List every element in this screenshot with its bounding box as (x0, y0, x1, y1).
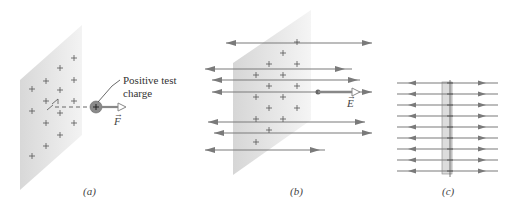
left-arrowhead-icon (212, 77, 222, 83)
panel-c (397, 80, 498, 177)
right-arrowhead-icon (478, 136, 486, 141)
panel-a (20, 25, 126, 190)
right-arrowhead-icon (310, 147, 320, 153)
right-arrowhead-icon (348, 77, 358, 83)
left-arrowhead-icon (408, 103, 416, 108)
right-arrowhead-icon (478, 92, 486, 97)
right-arrowhead-icon (335, 66, 345, 72)
right-arrowhead-icon (478, 169, 486, 174)
left-arrowhead-icon (408, 125, 416, 130)
left-arrowhead-icon (205, 66, 215, 72)
caption-b: (b) (290, 185, 303, 197)
vector-arrow-icon: → (114, 109, 123, 119)
right-arrowhead-icon (355, 119, 365, 125)
annotation-label-line1: Positive test (123, 74, 176, 86)
left-arrowhead-icon (408, 81, 416, 86)
right-arrowhead-icon (478, 125, 486, 130)
annotation-label-line2: charge (123, 87, 152, 99)
left-arrowhead-icon (212, 89, 222, 95)
right-arrowhead-icon (478, 81, 486, 86)
left-arrowhead-icon (226, 40, 236, 46)
annotation-leader-line (98, 80, 120, 102)
right-arrowhead-icon (478, 114, 486, 119)
left-arrowhead-icon (408, 169, 416, 174)
caption-a: (a) (83, 185, 96, 197)
right-arrowhead-icon (478, 147, 486, 152)
left-arrowhead-icon (408, 158, 416, 163)
left-arrowhead-icon (408, 136, 416, 141)
right-arrowhead-icon (478, 158, 486, 163)
left-arrowhead-icon (208, 119, 218, 125)
left-arrowhead-icon (408, 92, 416, 97)
right-arrowhead-icon (362, 40, 372, 46)
left-arrowhead-icon (205, 147, 215, 153)
right-arrowhead-icon (362, 130, 372, 136)
vector-arrow-icon: → (347, 91, 356, 101)
right-arrowhead-icon (478, 103, 486, 108)
right-arrowhead-icon (362, 89, 372, 95)
left-arrowhead-icon (408, 147, 416, 152)
left-arrowhead-icon (214, 130, 224, 136)
caption-c: (c) (442, 185, 454, 197)
figure-svg (0, 0, 508, 207)
left-arrowhead-icon (408, 114, 416, 119)
force-vector-label: → F (114, 115, 121, 127)
field-vector-label: → E (347, 97, 354, 109)
